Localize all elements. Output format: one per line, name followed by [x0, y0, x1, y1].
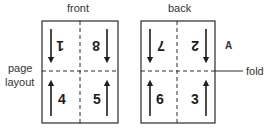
page-number-7: 7	[157, 38, 165, 54]
back-sheet: 7 2 6 3	[141, 21, 243, 123]
back-sheet-border	[141, 21, 215, 123]
page-number-2: 2	[191, 38, 199, 54]
front-sheet: 1 8 4 5	[42, 21, 118, 123]
page-number-4: 4	[58, 91, 66, 107]
imposition-diagram: 1 8 4 5 7 2 6 3	[0, 0, 270, 131]
page-number-8: 8	[92, 38, 100, 54]
page-number-5: 5	[93, 91, 101, 107]
page-number-3: 3	[191, 91, 199, 107]
page-number-6: 6	[156, 91, 164, 107]
page-number-1: 1	[56, 38, 64, 54]
